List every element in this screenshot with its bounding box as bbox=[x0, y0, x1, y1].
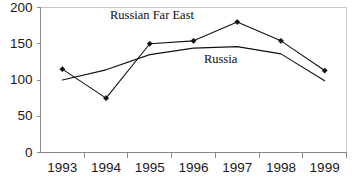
x-tick-label: 1998 bbox=[266, 160, 296, 175]
figure-caption bbox=[0, 184, 354, 193]
series-line-0 bbox=[62, 22, 324, 98]
x-tick-label: 1993 bbox=[47, 160, 77, 175]
x-tick-label: 1994 bbox=[91, 160, 122, 175]
chart-container: 0501001502001993199419951996199719981999… bbox=[0, 0, 354, 193]
series-line-1 bbox=[62, 47, 324, 81]
y-tick-label: 0 bbox=[25, 145, 33, 160]
x-tick-label: 1999 bbox=[310, 160, 340, 175]
x-tick-label: 1997 bbox=[222, 160, 252, 175]
series-annotation-1: Russia bbox=[204, 52, 238, 66]
y-tick-label: 200 bbox=[10, 0, 33, 15]
y-tick-label: 50 bbox=[17, 108, 32, 123]
x-tick-label: 1996 bbox=[178, 160, 208, 175]
x-tick-label: 1995 bbox=[135, 160, 165, 175]
line-chart: 0501001502001993199419951996199719981999… bbox=[0, 0, 354, 193]
data-point-marker bbox=[191, 38, 196, 43]
series-annotation-0: Russian Far East bbox=[110, 8, 195, 22]
y-tick-label: 100 bbox=[10, 72, 33, 87]
data-point-marker bbox=[235, 19, 240, 24]
y-tick-label: 150 bbox=[10, 36, 33, 51]
